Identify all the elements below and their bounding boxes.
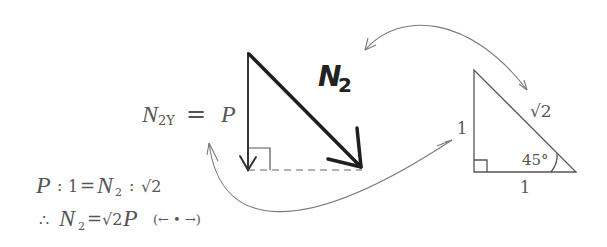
triangle-bottom-side-label: 1: [520, 178, 530, 197]
svg-text::: :: [129, 176, 134, 195]
svg-text:2: 2: [78, 220, 85, 233]
svg-text:2Y: 2Y: [158, 113, 175, 128]
svg-text:√2: √2: [141, 177, 161, 196]
svg-text:=: =: [80, 175, 95, 196]
svg-text:=: =: [87, 208, 102, 229]
diagram-canvas: N 2 N 2Y = P 1 1 √2 45° P : 1 = N 2 : √2…: [0, 0, 607, 247]
svg-text:P: P: [35, 172, 51, 198]
triangle-hypotenuse-label: √2: [530, 101, 552, 121]
svg-text:N: N: [96, 172, 115, 198]
svg-text:P: P: [122, 205, 138, 231]
force-n2-label: N 2: [318, 60, 352, 97]
svg-text:(← • →): (← • →): [153, 212, 201, 227]
right-angle-marker: [249, 148, 270, 170]
bottom-curve-arrow: [207, 140, 452, 212]
svg-text:P: P: [220, 101, 236, 127]
svg-text:1: 1: [68, 177, 78, 196]
triangle-left-side-label: 1: [457, 119, 467, 138]
svg-text:√2: √2: [102, 210, 122, 229]
vertical-component-arrow: [240, 53, 256, 170]
triangle-angle-label: 45°: [522, 151, 549, 169]
svg-text::: :: [57, 176, 62, 195]
svg-text:∴: ∴: [39, 211, 49, 230]
svg-text:N: N: [58, 205, 77, 231]
component-label: N 2Y = P: [141, 100, 236, 128]
svg-text:2: 2: [115, 186, 122, 199]
equation-line-2: ∴ N 2 = √2 P (← • →): [39, 205, 201, 233]
svg-text:=: =: [186, 100, 206, 128]
svg-text:2: 2: [338, 73, 352, 97]
force-n2-arrow: [249, 54, 361, 167]
equation-line-1: P : 1 = N 2 : √2: [35, 172, 161, 199]
top-curve-arrow: [365, 25, 527, 90]
